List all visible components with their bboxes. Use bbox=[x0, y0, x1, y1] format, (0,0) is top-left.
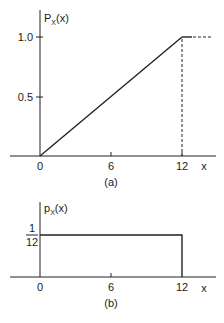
panel-a-cdf: 1.0 0.5 PX(x) 0 6 12 x (a) bbox=[10, 10, 216, 188]
x-tick-label: 6 bbox=[108, 281, 114, 293]
figure: 1.0 0.5 PX(x) 0 6 12 x (a) 1 12 pX(x) 0 … bbox=[0, 0, 224, 323]
x-tick-label: 12 bbox=[176, 281, 188, 293]
panel-caption-a: (a) bbox=[104, 176, 117, 188]
x-tick-label: 0 bbox=[37, 160, 43, 172]
y-tick-denominator: 12 bbox=[26, 236, 38, 248]
panel-caption-b: (b) bbox=[104, 297, 117, 309]
x-tick-label: 0 bbox=[37, 281, 43, 293]
y-tick-label: 1.0 bbox=[18, 31, 33, 43]
x-tick-label: 12 bbox=[176, 160, 188, 172]
panel-b-pdf: 1 12 pX(x) 0 6 12 x (b) bbox=[10, 202, 216, 309]
y-tick-numerator: 1 bbox=[29, 222, 35, 234]
x-axis-title: x bbox=[201, 282, 207, 294]
y-axis-title: pX(x) bbox=[44, 202, 68, 216]
y-tick-label: 0.5 bbox=[18, 91, 33, 103]
x-tick-label: 6 bbox=[108, 160, 114, 172]
cdf-ramp bbox=[40, 37, 182, 156]
pdf-rectangle bbox=[40, 235, 182, 277]
x-axis-title: x bbox=[201, 160, 207, 172]
y-axis-title: PX(x) bbox=[44, 12, 69, 26]
